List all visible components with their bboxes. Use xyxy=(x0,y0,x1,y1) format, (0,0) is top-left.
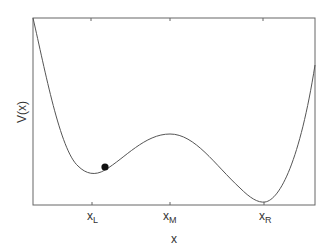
tick-label-xm: xM xyxy=(163,209,177,225)
ball-marker xyxy=(101,163,108,170)
y-axis-label: V(x) xyxy=(15,101,29,123)
plot-frame xyxy=(33,18,315,205)
potential-curve xyxy=(33,18,315,202)
potential-plot: V(x) x xL xM xR xyxy=(0,0,333,250)
x-axis-label: x xyxy=(171,232,177,246)
tick-label-xl: xL xyxy=(87,209,98,225)
tick-label-xr: xR xyxy=(259,209,272,225)
